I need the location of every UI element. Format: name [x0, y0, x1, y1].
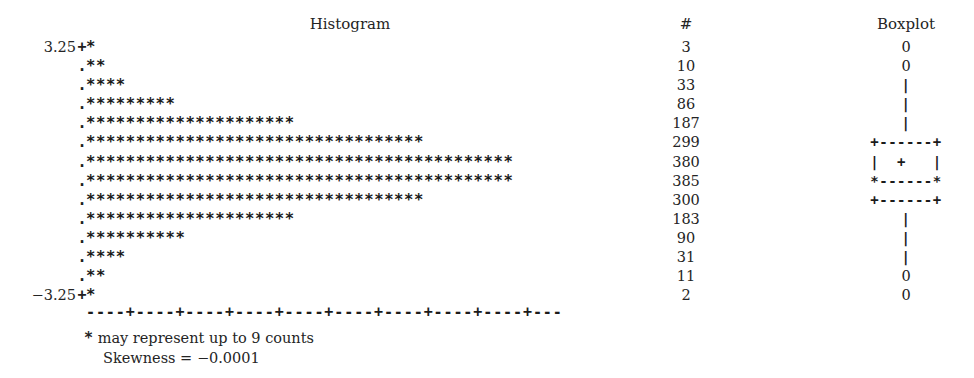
histogram-bar: **	[86, 57, 106, 76]
histogram-row: .***************************************…	[0, 153, 974, 172]
histogram-rows: 3.25+*30.**100.****33|.*********86|.****…	[0, 38, 974, 305]
axis-tick-label: 3.25	[0, 38, 76, 57]
histogram-row: .**100	[0, 57, 974, 76]
boxplot-outlier-marker: 0	[836, 267, 974, 286]
boxplot-outlier-marker: 0	[836, 286, 974, 305]
boxplot-whisker: |	[836, 210, 974, 229]
histogram-bar: ****************************************…	[86, 153, 513, 172]
boxplot-column-header: Boxplot	[836, 15, 974, 33]
boxplot-whisker: |	[836, 114, 974, 133]
boxplot-outlier-marker: 0	[836, 38, 974, 57]
histogram-bar: **********	[86, 229, 185, 248]
histogram-bar: ****	[86, 76, 126, 95]
bin-count-value: 385	[636, 172, 736, 191]
bin-count-value: 183	[636, 210, 736, 229]
boxplot-whisker: | + |	[836, 153, 974, 172]
star-legend-note: * may represent up to 9 counts	[84, 329, 314, 347]
histogram-row: .**********90|	[0, 229, 974, 248]
bin-count-value: 11	[636, 267, 736, 286]
axis-tick-label: −3.25	[0, 286, 76, 305]
histogram-row: .****33|	[0, 76, 974, 95]
histogram-bar: ****************************************…	[86, 172, 513, 191]
bin-count-value: 33	[636, 76, 736, 95]
histogram-row: .**********************************300+-…	[0, 191, 974, 210]
star-legend-text: may represent up to 9 counts	[93, 330, 314, 346]
histogram-row: .**********************************299+-…	[0, 133, 974, 152]
histogram-row: .***************************************…	[0, 172, 974, 191]
skewness-note: Skewness = −0.0001	[103, 350, 260, 366]
bin-count-value: 380	[636, 153, 736, 172]
histogram-bar: **********************************	[86, 191, 424, 210]
bin-count-value: 187	[636, 114, 736, 133]
histogram-row: 3.25+*30	[0, 38, 974, 57]
bin-count-value: 90	[636, 229, 736, 248]
histogram-bar: ****	[86, 248, 126, 267]
bin-count-value: 300	[636, 191, 736, 210]
histogram-bar: *********	[86, 95, 175, 114]
boxplot-box-segment: +------+	[836, 191, 974, 210]
histogram-row: .****31|	[0, 248, 974, 267]
boxplot-outlier-marker: 0	[836, 57, 974, 76]
boxplot-box-segment: *------*	[836, 172, 974, 191]
histogram-row: .**110	[0, 267, 974, 286]
boxplot-whisker: |	[836, 229, 974, 248]
histogram-column-header: Histogram	[0, 15, 700, 33]
histogram-bar: **	[86, 267, 106, 286]
histogram-row: .*********************183|	[0, 210, 974, 229]
bin-count-value: 3	[636, 38, 736, 57]
bin-count-value: 2	[636, 286, 736, 305]
histogram-bar: *	[86, 38, 96, 57]
histogram-bar: **********************************	[86, 133, 424, 152]
boxplot-whisker: |	[836, 76, 974, 95]
histogram-row: .*********************187|	[0, 114, 974, 133]
histogram-bar: *********************	[86, 114, 295, 133]
boxplot-box-segment: +------+	[836, 133, 974, 152]
histogram-row: .*********86|	[0, 95, 974, 114]
histogram-bar: *********************	[86, 210, 295, 229]
count-column-header: #	[636, 15, 736, 33]
bin-count-value: 31	[636, 248, 736, 267]
asterisk-icon: *	[84, 329, 93, 347]
bin-count-value: 86	[636, 95, 736, 114]
bin-count-value: 10	[636, 57, 736, 76]
boxplot-whisker: |	[836, 95, 974, 114]
axis-baseline: ----+----+----+----+----+----+----+----+…	[86, 303, 563, 321]
boxplot-whisker: |	[836, 248, 974, 267]
bin-count-value: 299	[636, 133, 736, 152]
